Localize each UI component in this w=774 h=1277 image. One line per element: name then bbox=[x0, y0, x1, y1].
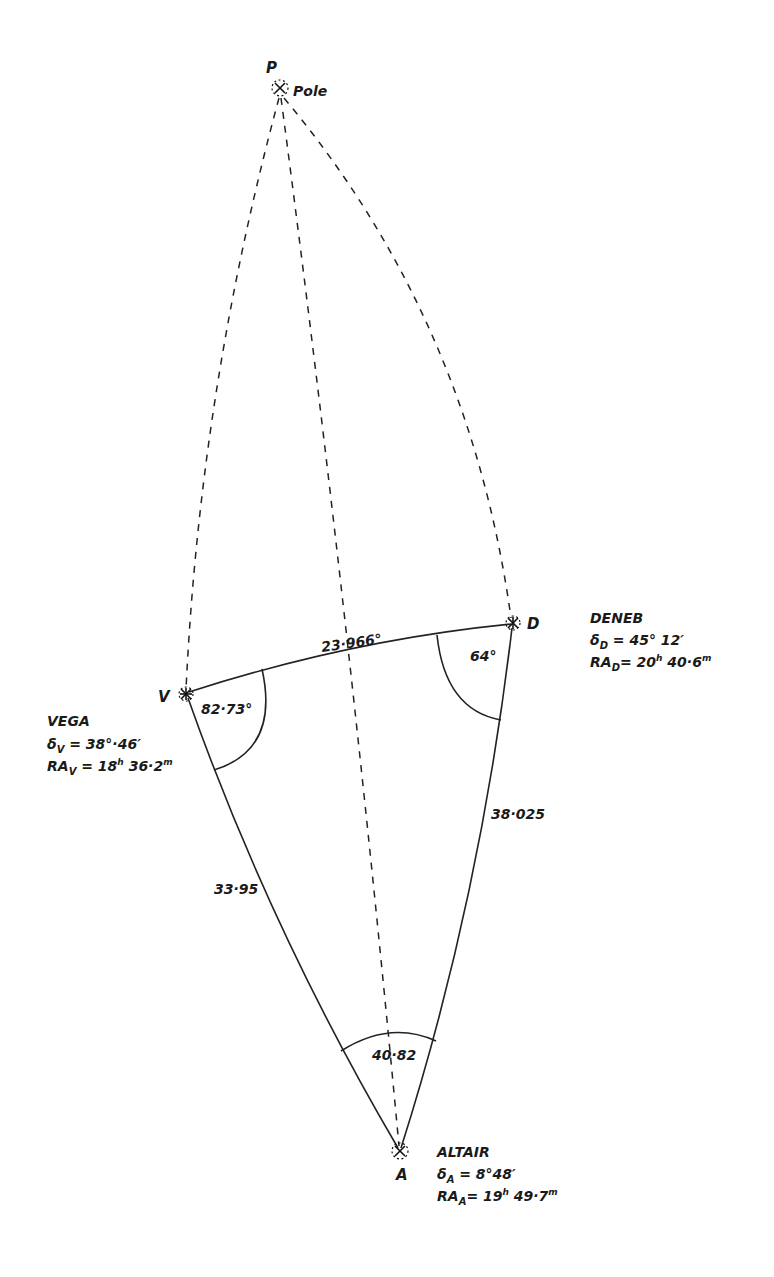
vega-star-marker bbox=[179, 687, 193, 701]
pole-star-marker bbox=[272, 80, 288, 96]
vega-info: VEGA δV = 38°·46′ RAV = 18h 36·2m bbox=[47, 713, 173, 777]
altair-declination: δA = 8°48′ bbox=[437, 1166, 516, 1185]
deneb-name: DENEB bbox=[590, 610, 643, 626]
deneb-right-ascension: RAD= 20h 40·6m bbox=[590, 653, 711, 673]
deneb-letter: D bbox=[527, 615, 539, 633]
vega-letter: V bbox=[158, 688, 171, 706]
side-vega-altair bbox=[188, 698, 398, 1148]
altair-right-ascension: RAA= 19h 49·7m bbox=[437, 1187, 558, 1207]
deneb-declination: δD = 45° 12′ bbox=[590, 632, 684, 651]
angle-label-altair: 40·82 bbox=[371, 1047, 416, 1063]
side-deneb-altair bbox=[401, 628, 512, 1148]
deneb-star-marker bbox=[506, 616, 520, 630]
side-label-vega-altair: 33·95 bbox=[214, 881, 259, 897]
pole-to-altair-dashed-arc bbox=[281, 98, 399, 1146]
pole-to-vega-dashed-arc bbox=[186, 98, 279, 690]
pole-to-deneb-dashed-arc bbox=[284, 98, 511, 618]
altair-letter: A bbox=[395, 1166, 408, 1184]
angle-label-deneb: 64° bbox=[470, 648, 496, 664]
spherical-triangle-diagram: P Pole V D A 23·966° 33·95 38·025 82·73°… bbox=[0, 0, 774, 1277]
angle-arc-vega bbox=[214, 669, 266, 770]
altair-star-marker bbox=[392, 1143, 408, 1159]
altair-info: ALTAIR δA = 8°48′ RAA= 19h 49·7m bbox=[436, 1144, 558, 1207]
vega-name: VEGA bbox=[47, 713, 90, 729]
pole-letter: P bbox=[266, 59, 277, 77]
altair-name: ALTAIR bbox=[436, 1144, 490, 1160]
side-label-deneb-altair: 38·025 bbox=[491, 806, 545, 822]
angle-label-vega: 82·73° bbox=[201, 701, 252, 717]
side-label-vega-deneb: 23·966° bbox=[320, 631, 383, 655]
deneb-info: DENEB δD = 45° 12′ RAD= 20h 40·6m bbox=[590, 610, 711, 673]
vega-right-ascension: RAV = 18h 36·2m bbox=[47, 757, 173, 777]
pole-name: Pole bbox=[293, 83, 327, 99]
vega-declination: δV = 38°·46′ bbox=[47, 736, 141, 755]
